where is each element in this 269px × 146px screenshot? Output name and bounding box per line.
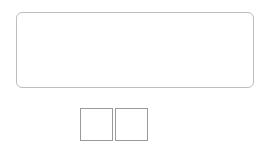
answer-box-difference[interactable] [115, 108, 148, 141]
answer-box-subtrahend[interactable] [80, 108, 113, 141]
ball-diagram [0, 0, 269, 100]
subtraction-equation [76, 106, 148, 142]
